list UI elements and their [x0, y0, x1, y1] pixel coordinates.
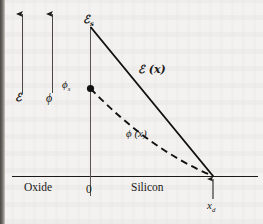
silicon-region-label: Silicon [131, 182, 164, 194]
electric-field-curve [91, 28, 213, 177]
surface-potential-label: ϕs [62, 79, 70, 93]
oxide-region-label: Oxide [24, 182, 52, 194]
surface-potential-point [87, 85, 94, 92]
figure-canvas: ℰ ϕ ℰs ϕs ℰ (x) ϕ (x) Oxide Silicon 0 xd [0, 0, 263, 224]
surface-field-symbol: ℰ [83, 13, 90, 26]
origin-label: 0 [86, 184, 92, 196]
surface-field-label: ℰs [83, 14, 94, 28]
electric-field-curve-label: ℰ (x) [138, 64, 166, 75]
depletion-edge-label: xd [207, 200, 215, 214]
potential-curve-label: ϕ (x) [126, 128, 147, 139]
depletion-edge-subscript: d [212, 206, 215, 213]
surface-potential-subscript: s [68, 85, 71, 92]
electric-field-axis-label: ℰ [15, 92, 22, 103]
surface-field-subscript: s [90, 20, 94, 28]
potential-axis-label: ϕ [46, 92, 52, 104]
